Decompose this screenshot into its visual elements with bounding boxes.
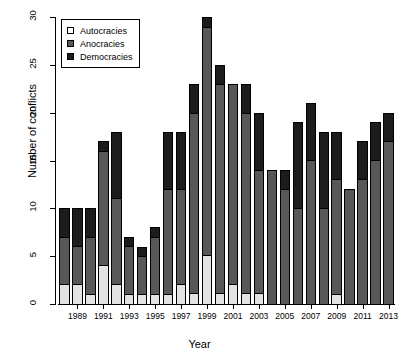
bar-segment-2001-anocracies — [229, 85, 237, 285]
bar-segment-1999-anocracies — [203, 28, 211, 257]
y-tick-label-30: 30 — [27, 1, 38, 31]
autocracies-swatch-icon — [67, 27, 74, 34]
bar-segment-1996-anocracies — [164, 190, 172, 295]
x-tick-2011 — [363, 305, 364, 309]
bar-segment-2000-democracies — [216, 66, 224, 85]
bar-segment-1997-autocracies — [177, 285, 185, 304]
bar-segment-2000-anocracies — [216, 85, 224, 295]
bar-segment-1994-autocracies — [138, 295, 146, 304]
bar-segment-1996-autocracies — [164, 295, 172, 305]
bar-segment-1989-anocracies — [73, 247, 81, 285]
bar-segment-1990-autocracies — [86, 295, 94, 304]
bar-segment-1990-democracies — [86, 209, 94, 237]
bar-2010 — [344, 189, 354, 304]
bar-segment-1999-democracies — [203, 18, 211, 28]
x-tick-1993 — [129, 305, 130, 309]
y-tick-5 — [50, 256, 55, 257]
bar-segment-1988-autocracies — [60, 285, 68, 304]
bar-segment-1989-autocracies — [73, 285, 81, 304]
bar-segment-2009-democracies — [332, 133, 340, 181]
legend: Autocracies Anocracies Democracies — [61, 19, 140, 68]
bar-segment-2013-anocracies — [384, 142, 392, 304]
bar-segment-1993-anocracies — [125, 247, 133, 294]
x-tick-1997 — [181, 305, 182, 309]
bar-1992 — [111, 132, 121, 304]
bar-2011 — [357, 141, 367, 304]
bar-2003 — [254, 113, 264, 304]
bar-segment-2007-anocracies — [307, 161, 315, 304]
legend-item-democracies: Democracies — [67, 50, 133, 63]
bar-segment-1994-anocracies — [138, 257, 146, 295]
y-axis-line — [55, 17, 56, 305]
bar-1996 — [163, 132, 173, 304]
bar-segment-2002-anocracies — [242, 114, 250, 295]
y-tick-10 — [50, 208, 55, 209]
y-tick-label-0: 0 — [27, 288, 38, 318]
bar-segment-2008-anocracies — [320, 209, 328, 304]
bar-segment-2002-democracies — [242, 85, 250, 114]
x-tick-2009 — [337, 305, 338, 309]
x-tick-1989 — [77, 305, 78, 309]
y-tick-label-10: 10 — [27, 192, 38, 222]
x-tick-2003 — [259, 305, 260, 309]
bar-segment-1988-democracies — [60, 209, 68, 237]
bar-segment-1991-democracies — [99, 142, 107, 152]
bar-segment-2005-democracies — [281, 171, 289, 190]
bar-segment-1998-anocracies — [190, 114, 198, 295]
y-tick-0 — [50, 304, 55, 305]
bar-2001 — [228, 84, 238, 304]
bar-1991 — [98, 141, 108, 304]
bar-1993 — [124, 237, 134, 304]
bar-segment-2006-anocracies — [294, 209, 302, 304]
bar-segment-1994-democracies — [138, 248, 146, 257]
bar-segment-1996-democracies — [164, 133, 172, 190]
y-tick-30 — [50, 17, 55, 18]
bar-segment-1992-autocracies — [112, 285, 120, 304]
bar-segment-1992-democracies — [112, 133, 120, 200]
bar-segment-2012-democracies — [371, 123, 379, 161]
y-tick-label-15: 15 — [27, 144, 38, 174]
x-tick-2001 — [233, 305, 234, 309]
x-axis-line — [58, 304, 395, 305]
legend-item-anocracies: Anocracies — [67, 37, 133, 50]
bar-1997 — [176, 132, 186, 304]
x-tick-2013 — [389, 305, 390, 309]
bar-segment-1992-anocracies — [112, 199, 120, 285]
anocracies-swatch-icon — [67, 40, 74, 47]
bar-segment-2011-anocracies — [358, 180, 366, 304]
bar-2007 — [306, 103, 316, 304]
bar-2012 — [370, 122, 380, 304]
x-tick-2007 — [311, 305, 312, 309]
bar-2002 — [241, 84, 251, 304]
y-tick-15 — [50, 161, 55, 162]
bar-1990 — [85, 208, 95, 304]
bar-1994 — [137, 247, 147, 304]
bar-segment-1990-anocracies — [86, 238, 94, 295]
conflicts-by-regime-type-chart: Number of conflicts Year 051015202530 19… — [0, 0, 399, 357]
bar-segment-1988-anocracies — [60, 238, 68, 285]
bar-segment-2013-democracies — [384, 114, 392, 143]
bar-segment-1991-autocracies — [99, 266, 107, 304]
bar-segment-1995-democracies — [151, 228, 159, 237]
bar-segment-1991-anocracies — [99, 152, 107, 266]
bar-segment-2003-anocracies — [255, 171, 263, 295]
legend-label-democracies: Democracies — [80, 52, 133, 62]
bar-segment-2010-anocracies — [345, 190, 353, 304]
bar-2006 — [293, 122, 303, 304]
bar-segment-1993-democracies — [125, 238, 133, 247]
bar-segment-1989-democracies — [73, 209, 81, 247]
bar-segment-1999-autocracies — [203, 256, 211, 304]
bar-segment-2003-autocracies — [255, 294, 263, 304]
bar-segment-1998-autocracies — [190, 294, 198, 304]
bar-1999 — [202, 17, 212, 304]
bar-segment-1993-autocracies — [125, 295, 133, 304]
bar-1988 — [59, 208, 69, 304]
bar-segment-1997-democracies — [177, 133, 185, 190]
legend-label-autocracies: Autocracies — [80, 26, 127, 36]
x-tick-1995 — [155, 305, 156, 309]
bar-segment-2004-anocracies — [268, 171, 276, 304]
bar-segment-1995-autocracies — [151, 295, 159, 304]
bar-1989 — [72, 208, 82, 304]
bar-2004 — [267, 170, 277, 304]
legend-label-anocracies: Anocracies — [80, 39, 125, 49]
